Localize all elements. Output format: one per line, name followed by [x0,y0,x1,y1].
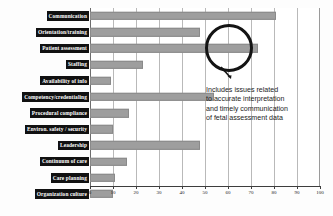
x-tick [113,186,114,189]
x-tick [159,186,160,189]
category-label: Orientation/training [36,28,89,37]
x-tick [136,186,137,189]
bar-row: Organization culture [0,186,333,202]
category-label-wrap: Staffing [0,60,90,69]
bar-track [90,121,320,137]
category-label-wrap: Competency/credentialing [0,92,90,101]
bar [90,109,129,117]
category-label: Patient assessment [40,44,89,53]
category-label: Care planning [51,173,89,182]
x-tick [205,186,206,189]
category-label: Environ. safety / security [25,125,89,134]
annotation-line-2: to accurate interpretation [206,95,330,104]
bar-track [90,8,320,24]
category-label-wrap: Continuum of care [0,157,90,166]
bar [90,174,115,182]
x-tick-label: 80 [272,190,277,195]
x-tick-label: 50 [203,190,208,195]
x-tick [274,186,275,189]
bar [90,28,200,36]
category-label: Communication [47,11,89,20]
x-tick-label: 40 [180,190,185,195]
bar-row: Environ. safety / security [0,121,333,137]
x-tick-label: 30 [157,190,162,195]
bar-track [90,137,320,153]
category-label: Leadership [58,141,89,150]
bar-row: Orientation/training [0,24,333,40]
category-label: Continuum of care [40,157,89,166]
bar [90,93,214,101]
bar [90,125,113,133]
category-label-wrap: Care planning [0,173,90,182]
bar-row: Patient assessment [0,40,333,56]
category-label-wrap: Organization culture [0,189,90,198]
category-label-wrap: Leadership [0,141,90,150]
bar-track [90,40,320,56]
category-label-wrap: Patient assessment [0,44,90,53]
bar-row: Leadership [0,137,333,153]
annotation-line-1: Includes issues related [206,86,330,95]
annotation-line-4: of fetal assessment data [206,114,330,123]
bar-row: Communication [0,8,333,24]
x-tick [228,186,229,189]
bar-row: Continuum of care [0,154,333,170]
bar [90,44,258,52]
bar [90,141,200,149]
category-label-wrap: Availability of info [0,76,90,85]
x-tick [182,186,183,189]
bar-row: Care planning [0,170,333,186]
callout-annotation-text: Includes issues related to accurate inte… [206,86,330,124]
x-tick-label: 100 [316,190,324,195]
bar [90,157,127,165]
x-tick-label: 60 [226,190,231,195]
x-tick-label: 20 [134,190,139,195]
x-tick-label: 90 [295,190,300,195]
bar-track [90,57,320,73]
bar-chart: CommunicationOrientation/trainingPatient… [0,0,333,216]
bar [90,12,276,20]
x-tick [297,186,298,189]
category-label: Staffing [66,60,89,69]
category-label: Organization culture [35,189,89,198]
category-label-wrap: Orientation/training [0,28,90,37]
category-label-wrap: Environ. safety / security [0,125,90,134]
annotation-line-3: and timely communication [206,105,330,114]
bar-track [90,24,320,40]
x-tick-label: 70 [249,190,254,195]
category-label-wrap: Procedural compliance [0,108,90,117]
bar-track [90,170,320,186]
bar [90,77,111,85]
x-tick [251,186,252,189]
category-label-wrap: Communication [0,11,90,20]
x-tick-label: 10 [111,190,116,195]
bar-row: Staffing [0,57,333,73]
x-tick-label: 0 [89,190,92,195]
bar-track [90,154,320,170]
category-label: Competency/credentialing [22,92,89,101]
x-tick [320,186,321,189]
x-tick [90,186,91,189]
category-label: Procedural compliance [30,108,89,117]
bar [90,60,143,68]
category-label: Availability of info [40,76,89,85]
